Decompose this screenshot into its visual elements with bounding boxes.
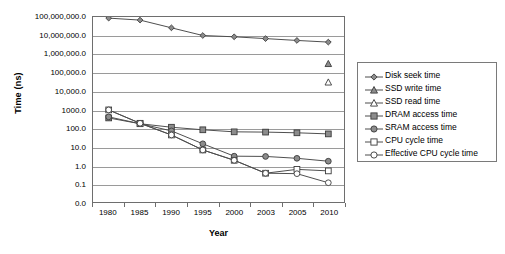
data-point xyxy=(325,131,331,137)
data-point xyxy=(169,132,175,138)
y-axis-tick-labels: 100,000,000.010,000,000.01,000,000.0100,… xyxy=(6,0,86,254)
y-tick-label: 10,000.0 xyxy=(55,86,86,95)
open-square-icon xyxy=(363,134,385,146)
data-point xyxy=(200,147,206,153)
data-point xyxy=(294,155,300,161)
data-point xyxy=(200,141,206,147)
data-point xyxy=(231,129,237,135)
data-point xyxy=(294,171,300,177)
legend: Disk seek timeSSD write timeSSD read tim… xyxy=(357,62,497,162)
legend-label: SRAM access time xyxy=(385,121,457,133)
y-tick-label: 100,000.0 xyxy=(50,68,86,77)
x-tick xyxy=(345,203,346,207)
x-tick xyxy=(282,203,283,207)
data-point xyxy=(106,17,112,21)
chart-figure: Time (ns) 100,000,000.010,000,000.01,000… xyxy=(0,0,505,254)
series-ssd-write-time xyxy=(325,60,332,66)
legend-label: SSD read time xyxy=(385,95,440,107)
data-point xyxy=(231,157,237,163)
data-point xyxy=(325,39,331,45)
y-tick-label: 100.0 xyxy=(66,124,86,133)
data-point xyxy=(325,79,332,85)
x-tick xyxy=(219,203,220,207)
open-triangle-icon xyxy=(363,95,385,107)
y-tick-label: 0.1 xyxy=(75,180,86,189)
series-line xyxy=(109,110,329,173)
x-tick xyxy=(124,203,125,207)
series-disk-seek-time xyxy=(106,17,331,45)
x-tick xyxy=(155,203,156,207)
data-point xyxy=(325,158,331,164)
x-axis-title: Year xyxy=(92,228,345,238)
y-tick-label: 1000.0 xyxy=(62,105,86,114)
data-point xyxy=(200,127,206,133)
data-point xyxy=(325,180,331,186)
data-point xyxy=(263,36,269,42)
data-point xyxy=(294,130,300,136)
data-point xyxy=(106,114,112,120)
y-tick-label: 10,000,000.0 xyxy=(39,30,86,39)
data-point xyxy=(325,60,332,66)
legend-item-0[interactable]: Disk seek time xyxy=(363,68,496,81)
data-point xyxy=(325,168,331,174)
legend-label: DRAM access time xyxy=(385,108,457,120)
x-tick xyxy=(313,203,314,207)
filled-square-icon xyxy=(363,108,385,120)
series-canvas xyxy=(93,17,344,202)
legend-label: Disk seek time xyxy=(385,69,440,81)
y-tick-label: 1.0 xyxy=(75,161,86,170)
x-tick-label: 1985 xyxy=(131,208,149,217)
x-tick xyxy=(250,203,251,207)
data-point xyxy=(263,170,269,176)
data-point xyxy=(294,38,300,44)
filled-circle-icon xyxy=(363,121,385,133)
filled-triangle-icon xyxy=(363,82,385,94)
legend-item-6[interactable]: Effective CPU cycle time xyxy=(363,146,496,159)
y-tick-label: 10.0 xyxy=(70,142,86,151)
x-tick-label: 1990 xyxy=(162,208,180,217)
x-tick-label: 2005 xyxy=(289,208,307,217)
legend-item-3[interactable]: DRAM access time xyxy=(363,107,496,120)
open-circle-icon xyxy=(363,147,385,159)
plot-area xyxy=(92,16,345,203)
x-tick-label: 2003 xyxy=(257,208,275,217)
data-point xyxy=(231,34,237,40)
x-tick-label: 1995 xyxy=(194,208,212,217)
data-point xyxy=(263,129,269,135)
x-tick xyxy=(92,203,93,207)
legend-label: Effective CPU cycle time xyxy=(385,147,478,159)
series-effective-cpu-cycle-time xyxy=(106,107,331,186)
legend-item-1[interactable]: SSD write time xyxy=(363,81,496,94)
data-point xyxy=(263,154,269,160)
x-tick-label: 2000 xyxy=(225,208,243,217)
x-tick-label: 2010 xyxy=(320,208,338,217)
y-tick-label: 0.0 xyxy=(75,199,86,208)
legend-item-5[interactable]: CPU cycle time xyxy=(363,133,496,146)
data-point xyxy=(106,107,112,113)
data-point xyxy=(200,33,206,39)
data-point xyxy=(137,120,143,126)
y-tick-label: 100,000,000.0 xyxy=(35,12,86,21)
legend-item-2[interactable]: SSD read time xyxy=(363,94,496,107)
x-tick xyxy=(187,203,188,207)
data-point xyxy=(169,25,175,31)
series-ssd-read-time xyxy=(325,79,332,85)
filled-diamond-icon xyxy=(363,69,385,81)
x-axis-tick-labels: 19801985199019952000200320052010 xyxy=(92,208,345,222)
legend-label: CPU cycle time xyxy=(385,134,443,146)
x-tick-label: 1980 xyxy=(99,208,117,217)
series-cpu-cycle-time xyxy=(106,107,331,176)
y-tick-label: 1,000,000.0 xyxy=(44,49,86,58)
legend-item-4[interactable]: SRAM access time xyxy=(363,120,496,133)
legend-label: SSD write time xyxy=(385,82,441,94)
data-point xyxy=(137,17,143,23)
